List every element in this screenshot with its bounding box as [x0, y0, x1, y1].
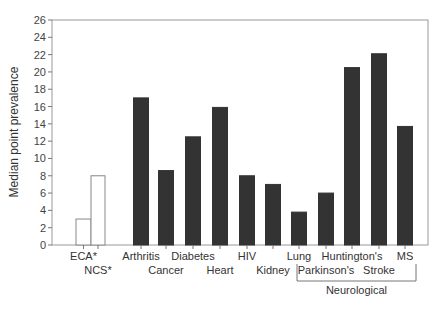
x-category-label: Heart	[207, 264, 234, 276]
bar	[134, 98, 149, 245]
y-axis: 02468101214161820222426	[34, 14, 52, 251]
bar	[186, 137, 201, 245]
bars	[76, 54, 413, 245]
x-category-label: Cancer	[148, 264, 184, 276]
bar	[240, 176, 255, 245]
bar-chart: 02468101214161820222426 ECA*NCS*Arthriti…	[0, 0, 441, 312]
y-tick-label: 14	[34, 118, 46, 130]
x-category-label: Kidney	[256, 264, 290, 276]
x-category-label: Lung	[287, 250, 311, 262]
x-category-label: NCS*	[84, 264, 112, 276]
bar	[319, 193, 334, 245]
bar	[91, 176, 105, 245]
x-axis-labels: ECA*NCS*ArthritisCancerDiabetesHeartHIVK…	[70, 245, 413, 276]
y-tick-label: 2	[40, 222, 46, 234]
bar	[292, 212, 307, 245]
bar	[345, 68, 360, 245]
bar	[266, 184, 281, 245]
y-tick-label: 16	[34, 101, 46, 113]
y-tick-label: 26	[34, 14, 46, 26]
bar	[76, 219, 91, 245]
y-tick-label: 20	[34, 66, 46, 78]
bar	[372, 54, 387, 245]
y-tick-label: 12	[34, 135, 46, 147]
x-category-label: MS	[397, 250, 414, 262]
y-tick-label: 18	[34, 83, 46, 95]
x-category-label: HIV	[238, 250, 257, 262]
y-tick-label: 6	[40, 187, 46, 199]
y-tick-label: 24	[34, 31, 46, 43]
group-label: Neurological	[326, 284, 387, 296]
bar	[398, 126, 413, 245]
x-category-label: Arthritis	[122, 250, 160, 262]
x-category-label: Diabetes	[171, 250, 215, 262]
x-category-label: ECA*	[70, 250, 98, 262]
x-category-label: Huntington's	[322, 250, 383, 262]
y-tick-label: 10	[34, 152, 46, 164]
y-tick-label: 0	[40, 239, 46, 251]
y-tick-label: 22	[34, 49, 46, 61]
y-axis-title: Median point prevalence	[7, 66, 21, 197]
x-category-label: Stroke	[363, 264, 395, 276]
bar	[213, 107, 228, 245]
y-tick-label: 4	[40, 204, 46, 216]
bar	[159, 171, 174, 245]
x-category-label: Parkinson's	[298, 264, 355, 276]
y-tick-label: 8	[40, 170, 46, 182]
